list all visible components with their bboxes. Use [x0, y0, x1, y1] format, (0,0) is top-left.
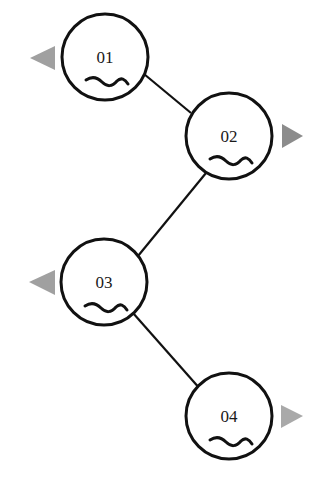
- node-label: 03: [96, 273, 113, 292]
- edge-02-03: [138, 173, 206, 256]
- node-label: 02: [221, 127, 238, 146]
- edge-03-04: [133, 313, 201, 390]
- arrow-left-icon[interactable]: [29, 270, 55, 295]
- node-label: 01: [97, 48, 114, 67]
- arrow-left-icon[interactable]: [30, 46, 55, 70]
- node-04[interactable]: 04: [186, 373, 303, 459]
- node-03[interactable]: 03: [29, 239, 147, 325]
- arrow-right-icon[interactable]: [281, 405, 303, 428]
- node-02[interactable]: 02: [186, 93, 303, 179]
- arrow-right-icon[interactable]: [282, 124, 303, 148]
- node-label: 04: [221, 407, 239, 426]
- edge-01-02: [144, 74, 191, 113]
- node-chain-diagram: 01 02 03 04: [0, 0, 309, 494]
- node-01[interactable]: 01: [30, 14, 148, 100]
